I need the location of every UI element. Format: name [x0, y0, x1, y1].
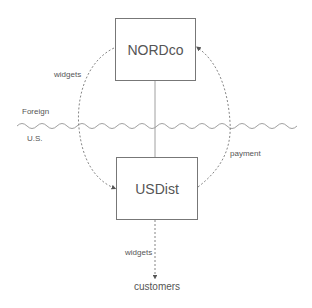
widgets-arc-label: widgets — [54, 70, 81, 79]
payment-flow-arc — [198, 48, 230, 187]
usdist-node: USDist — [116, 157, 198, 220]
widgets-flow-arc — [78, 48, 114, 188]
nordco-label: NORDco — [127, 42, 183, 58]
widgets-bottom-label: widgets — [125, 248, 152, 257]
customers-label: customers — [134, 281, 180, 292]
nordco-node: NORDco — [115, 18, 196, 81]
us-region-label: U.S. — [27, 134, 43, 143]
usdist-label: USDist — [135, 181, 179, 197]
foreign-region-label: Foreign — [22, 107, 49, 116]
payment-arc-label: payment — [230, 149, 261, 158]
border-wave — [17, 124, 297, 129]
